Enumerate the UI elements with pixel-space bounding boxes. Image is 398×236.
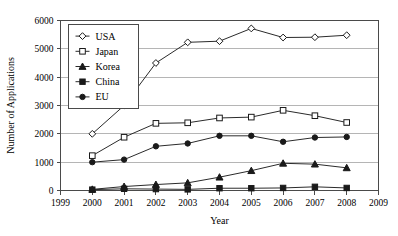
marker-filled-square	[312, 184, 317, 189]
marker-filled-circle	[153, 144, 158, 149]
series-eu	[90, 133, 350, 165]
marker-filled-square	[280, 185, 285, 190]
marker-filled-circle	[217, 133, 222, 138]
marker-open-square	[121, 134, 127, 140]
marker-open-square	[312, 113, 318, 119]
marker-filled-circle	[249, 133, 254, 138]
x-tick-label: 2009	[369, 198, 388, 208]
x-axis-title: Year	[210, 215, 229, 226]
marker-open-square	[153, 121, 159, 127]
marker-open-diamond	[312, 34, 319, 41]
legend-label-korea: Korea	[96, 61, 121, 72]
y-tick-label: 2000	[35, 129, 54, 139]
marker-open-diamond	[184, 39, 191, 46]
marker-filled-square	[90, 187, 95, 192]
marker-filled-circle	[280, 139, 285, 144]
x-tick-label: 2003	[178, 198, 197, 208]
y-tick-label: 3000	[35, 101, 54, 111]
y-tick-label: 6000	[35, 16, 54, 26]
legend-label-usa: USA	[96, 31, 117, 42]
marker-filled-circle	[80, 94, 85, 99]
legend-label-eu: EU	[96, 91, 110, 102]
x-tick-label: 2006	[274, 198, 293, 208]
legend: USAJapanKoreaChinaEU	[69, 25, 139, 109]
marker-open-diamond	[248, 25, 255, 32]
y-axis-group: 0100020003000400050006000	[35, 16, 61, 196]
marker-filled-square	[80, 79, 85, 84]
x-axis-group: 1999200020012002200320042005200620072008…	[51, 191, 388, 208]
series-line-eu	[92, 136, 346, 162]
marker-open-diamond	[343, 32, 350, 39]
marker-open-diamond	[216, 38, 223, 45]
marker-filled-circle	[312, 135, 317, 140]
x-tick-label: 2000	[83, 198, 102, 208]
y-tick-label: 1000	[35, 158, 54, 168]
y-tick-label: 5000	[35, 44, 54, 54]
marker-filled-square	[185, 187, 190, 192]
marker-open-square	[90, 153, 96, 159]
marker-filled-square	[217, 186, 222, 191]
marker-filled-square	[121, 186, 126, 191]
marker-open-diamond	[280, 34, 287, 41]
x-tick-label: 2001	[115, 198, 134, 208]
y-tick-label: 0	[49, 186, 54, 196]
marker-filled-circle	[90, 159, 95, 164]
marker-filled-circle	[121, 157, 126, 162]
marker-open-square	[217, 115, 223, 121]
y-axis-title: Number of Applications	[5, 57, 16, 154]
y-tick-label: 4000	[35, 73, 54, 83]
x-tick-label: 1999	[51, 198, 70, 208]
marker-open-square	[344, 120, 350, 126]
line-chart: 0100020003000400050006000199920002001200…	[0, 0, 398, 236]
marker-filled-square	[344, 185, 349, 190]
marker-filled-circle	[185, 141, 190, 146]
x-tick-label: 2004	[210, 198, 229, 208]
x-tick-label: 2005	[242, 198, 261, 208]
marker-open-square	[80, 49, 86, 55]
legend-label-japan: Japan	[96, 46, 119, 57]
marker-open-square	[249, 114, 255, 120]
marker-filled-square	[249, 186, 254, 191]
marker-filled-circle	[344, 134, 349, 139]
x-tick-label: 2007	[305, 198, 324, 208]
marker-open-square	[280, 108, 286, 114]
chart-figure: 0100020003000400050006000199920002001200…	[0, 0, 398, 236]
x-tick-label: 2008	[337, 198, 356, 208]
series-china	[90, 184, 350, 192]
legend-label-china: China	[96, 76, 120, 87]
marker-open-square	[185, 120, 191, 126]
marker-filled-square	[153, 186, 158, 191]
x-tick-label: 2002	[146, 198, 165, 208]
